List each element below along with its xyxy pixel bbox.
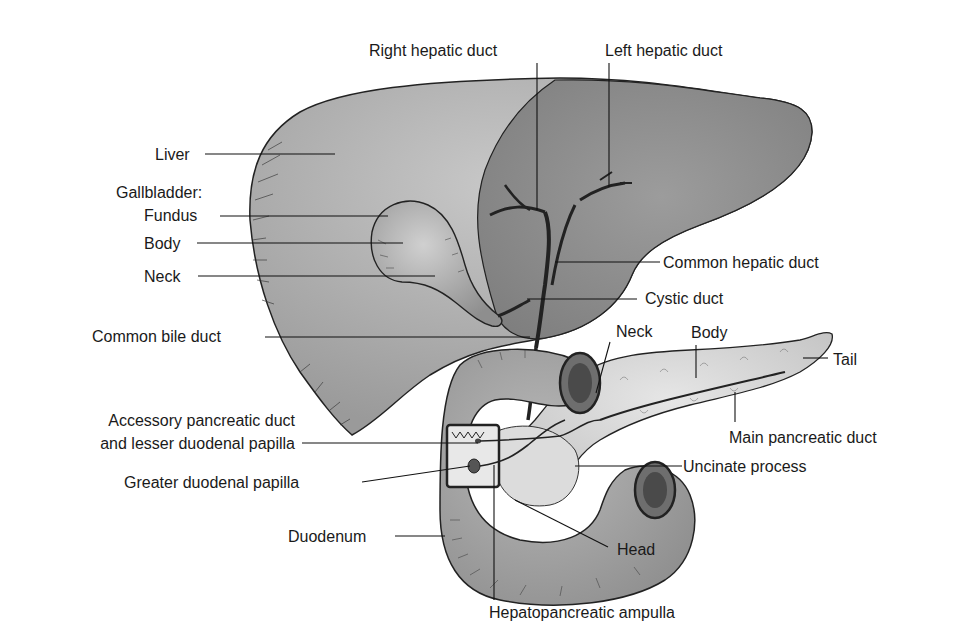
anatomy-diagram: Right hepatic duct Left hepatic duct Liv… xyxy=(0,0,958,642)
label-gallbladder-fundus: Fundus xyxy=(144,206,197,225)
anatomy-illustration xyxy=(0,0,958,642)
label-hepatopancreatic-ampulla: Hepatopancreatic ampulla xyxy=(489,603,675,622)
label-pancreas-neck: Neck xyxy=(616,322,652,341)
label-gallbladder-heading: Gallbladder: xyxy=(116,183,202,202)
label-gallbladder-body: Body xyxy=(144,234,180,253)
label-common-hepatic-duct: Common hepatic duct xyxy=(663,253,819,272)
label-greater-duodenal-papilla: Greater duodenal papilla xyxy=(124,473,299,492)
duodenum-window xyxy=(447,425,499,487)
label-right-hepatic-duct: Right hepatic duct xyxy=(369,41,497,60)
label-duodenum: Duodenum xyxy=(288,527,366,546)
label-cystic-duct: Cystic duct xyxy=(645,289,723,308)
label-liver: Liver xyxy=(155,145,190,164)
label-common-bile-duct: Common bile duct xyxy=(92,327,221,346)
label-accessory-pancreatic-duct-line2: and lesser duodenal papilla xyxy=(35,434,295,453)
label-main-pancreatic-duct: Main pancreatic duct xyxy=(729,428,877,447)
label-pancreas-head: Head xyxy=(617,540,655,559)
label-pancreas-tail: Tail xyxy=(833,350,857,369)
label-accessory-pancreatic-duct-line1: Accessory pancreatic duct xyxy=(35,411,295,430)
label-gallbladder-neck: Neck xyxy=(144,267,180,286)
label-uncinate-process: Uncinate process xyxy=(683,457,807,476)
label-left-hepatic-duct: Left hepatic duct xyxy=(605,41,722,60)
label-pancreas-body: Body xyxy=(691,323,727,342)
